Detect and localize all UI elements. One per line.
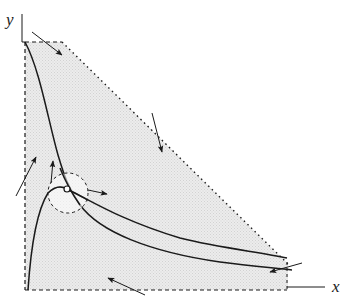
equilibrium-point <box>64 186 70 192</box>
phase-diagram: y x <box>0 0 350 302</box>
neighborhood-circle <box>48 173 88 213</box>
x-axis-label: x <box>331 277 340 296</box>
shaded-region <box>25 42 288 290</box>
y-axis-label: y <box>4 10 14 29</box>
